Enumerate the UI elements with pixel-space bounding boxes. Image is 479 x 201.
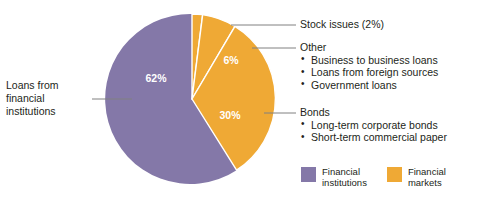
callout-stock-issues: Stock issues (2%)	[300, 18, 384, 31]
list-item: Business to business loans	[300, 54, 438, 67]
slice-label-other: 6%	[223, 54, 239, 66]
callout-heading-bonds: Bonds	[300, 106, 447, 119]
legend-item-financial-institutions[interactable]: Financial institutions	[301, 166, 367, 188]
legend-label-financial-markets: Financial markets	[408, 166, 446, 188]
callout-heading-other: Other	[300, 41, 438, 54]
legend-swatch-financial-institutions	[301, 167, 316, 182]
callout-loans-from-financial-institutions: Loans from financial institutions	[6, 79, 92, 117]
legend-item-financial-markets[interactable]: Financial markets	[387, 166, 446, 188]
slice-label-loans-from-financial-institutions: 62%	[145, 72, 167, 84]
list-item: Long-term corporate bonds	[300, 119, 447, 132]
callout-heading-stock-issues: Stock issues (2%)	[300, 18, 384, 31]
list-item: Short-term commercial paper	[300, 131, 447, 144]
callout-line-3: institutions	[6, 105, 92, 118]
list-item: Government loans	[300, 79, 438, 92]
callout-list-other: Business to business loans Loans from fo…	[300, 54, 438, 92]
chart-legend: Financial institutions Financial markets	[301, 166, 446, 188]
callout-list-bonds: Long-term corporate bonds Short-term com…	[300, 119, 447, 144]
callout-other: Other Business to business loans Loans f…	[300, 41, 438, 91]
slice-label-bonds: 30%	[219, 109, 241, 121]
legend-swatch-financial-markets	[387, 167, 402, 182]
pie-chart-figure: 62% 6% 30% Loans from financial institut…	[0, 0, 479, 201]
callout-line-1: Loans from	[6, 79, 92, 92]
callout-bonds: Bonds Long-term corporate bonds Short-te…	[300, 106, 447, 144]
callout-line-2: financial	[6, 92, 92, 105]
legend-label-financial-institutions: Financial institutions	[322, 166, 367, 188]
list-item: Loans from foreign sources	[300, 66, 438, 79]
